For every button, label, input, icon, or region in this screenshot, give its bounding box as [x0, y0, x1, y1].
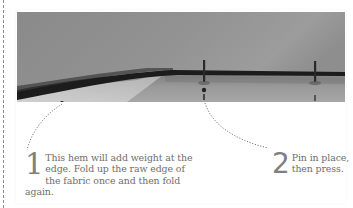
fabric-photo-graphic — [17, 12, 345, 102]
step-1-caption: 1 This hem will add weight at the edge. … — [25, 152, 195, 197]
step-2-text: Pin in place, then press. — [292, 152, 349, 174]
step-1-text: This hem will add weight at the edge. Fo… — [25, 152, 192, 197]
dashed-page-margin — [3, 0, 4, 208]
fabric-hem-photo — [17, 12, 345, 102]
step-2-number: 2 — [272, 153, 290, 175]
step-1-number: 1 — [25, 153, 43, 175]
step-2-caption: 2 Pin in place, then press. — [272, 152, 352, 175]
